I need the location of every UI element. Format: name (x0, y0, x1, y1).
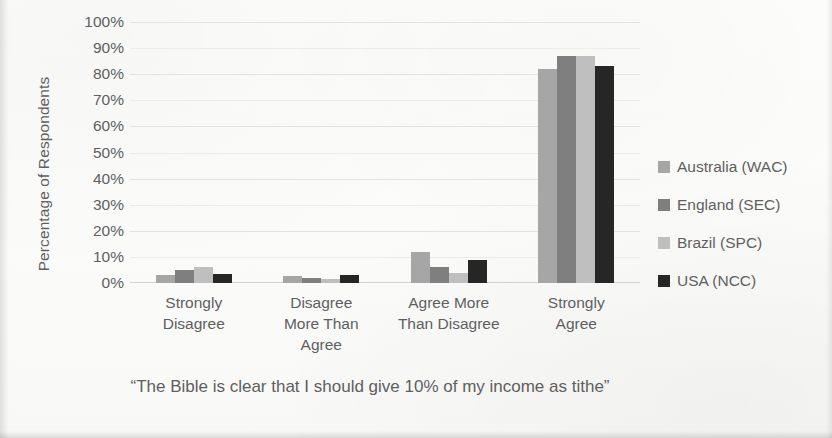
legend-item[interactable]: Australia (WAC) (658, 148, 830, 186)
x-axis-category-label: DisagreeMore ThanAgree (258, 292, 386, 355)
grouped-bar-chart: Percentage of Respondents 100%90%80%70%6… (0, 0, 832, 438)
bar-group (258, 22, 386, 283)
bar[interactable] (175, 270, 194, 283)
x-axis-category-label: StronglyDisagree (130, 292, 258, 355)
bar[interactable] (595, 66, 614, 283)
y-axis-title: Percentage of Respondents (35, 44, 53, 304)
bar[interactable] (557, 56, 576, 283)
bar[interactable] (194, 267, 213, 283)
bar[interactable] (283, 276, 302, 283)
bar[interactable] (449, 273, 468, 283)
bar-group (513, 22, 641, 283)
y-axis-tick-label: 70% (52, 91, 124, 109)
plot-area (130, 22, 640, 283)
bar-groups (130, 22, 640, 283)
y-axis-tick-label: 60% (52, 117, 124, 135)
y-axis-tick-label: 40% (52, 170, 124, 188)
chart-legend: Australia (WAC)England (SEC)Brazil (SPC)… (658, 148, 830, 300)
bar[interactable] (156, 275, 175, 283)
x-axis-category-labels: StronglyDisagreeDisagreeMore ThanAgreeAg… (130, 292, 640, 355)
legend-swatch-icon (658, 275, 670, 287)
bar[interactable] (430, 267, 449, 283)
legend-label: Brazil (SPC) (677, 234, 762, 252)
y-axis-tick-label: 80% (52, 65, 124, 83)
bar[interactable] (321, 279, 340, 283)
legend-label: USA (NCC) (677, 272, 756, 290)
y-axis-tick-label: 50% (52, 144, 124, 162)
bar[interactable] (213, 274, 232, 283)
legend-swatch-icon (658, 237, 670, 249)
legend-item[interactable]: Brazil (SPC) (658, 224, 830, 262)
legend-label: England (SEC) (677, 196, 780, 214)
bar[interactable] (340, 275, 359, 283)
x-axis-title: “The Bible is clear that I should give 1… (60, 377, 680, 397)
y-axis-tick-label: 20% (52, 222, 124, 240)
legend-swatch-icon (658, 199, 670, 211)
bar[interactable] (576, 56, 595, 283)
x-axis-category-label: Agree MoreThan Disagree (385, 292, 513, 355)
legend-label: Australia (WAC) (677, 158, 788, 176)
bar[interactable] (302, 278, 321, 283)
y-axis-tick-label: 100% (52, 13, 124, 31)
legend-item[interactable]: USA (NCC) (658, 262, 830, 300)
bar[interactable] (538, 69, 557, 283)
legend-item[interactable]: England (SEC) (658, 186, 830, 224)
legend-swatch-icon (658, 161, 670, 173)
bar-group (385, 22, 513, 283)
x-axis-category-label: StronglyAgree (513, 292, 641, 355)
y-axis-tick-label: 30% (52, 196, 124, 214)
y-axis-tick-label: 90% (52, 39, 124, 57)
bar-group (130, 22, 258, 283)
bar[interactable] (411, 252, 430, 283)
y-axis-tick-label: 10% (52, 248, 124, 266)
bar[interactable] (468, 260, 487, 283)
y-axis-tick-label: 0% (52, 274, 124, 292)
y-axis-tick-labels: 100%90%80%70%60%50%40%30%20%10%0% (52, 12, 124, 294)
